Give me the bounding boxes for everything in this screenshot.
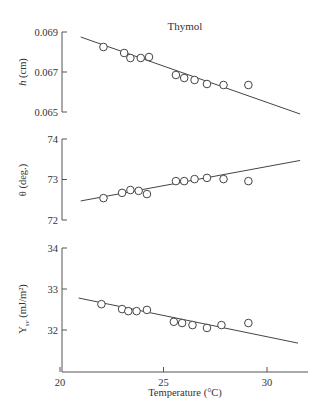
- y-tick-label: 0.069: [34, 27, 58, 38]
- data-point-marker: [133, 307, 141, 315]
- y-axis-theta: 747372: [48, 134, 68, 226]
- x-axis-temperature: 202530: [55, 367, 308, 388]
- data-point-marker: [143, 306, 151, 314]
- y-tick-label: 74: [48, 134, 59, 145]
- fit-line: [81, 160, 300, 201]
- y-tick-label: 72: [48, 215, 59, 226]
- y-axis-gamma: 343332: [48, 243, 68, 373]
- y-axis-title-theta: θ (deg.): [17, 163, 29, 196]
- data-point-marker: [172, 71, 180, 79]
- y-tick-label: 0.067: [34, 67, 58, 78]
- data-point-marker: [143, 190, 151, 198]
- plot-area-h: [81, 37, 300, 114]
- data-point-marker: [100, 194, 108, 202]
- data-point-marker: [172, 177, 180, 185]
- x-tick-label: 20: [55, 377, 66, 388]
- data-point-marker: [125, 307, 133, 315]
- data-point-marker: [127, 54, 135, 62]
- panel-top-h: 0.0690.0670.065 h (cm): [17, 27, 300, 118]
- data-point-marker: [137, 54, 145, 62]
- y-axis-title-h: h (cm): [17, 58, 29, 86]
- data-point-marker: [180, 177, 188, 185]
- plot-area-gamma: [79, 298, 298, 343]
- x-tick-label: 30: [262, 377, 273, 388]
- thymol-chart: Thymol 0.0690.0670.065 h (cm) 747372 θ (…: [0, 0, 324, 415]
- data-point-marker: [220, 175, 228, 183]
- data-point-marker: [203, 80, 211, 88]
- data-point-marker: [170, 318, 178, 326]
- data-point-marker: [118, 189, 126, 197]
- data-point-marker: [245, 177, 253, 185]
- data-point-marker: [191, 175, 199, 183]
- fit-line: [81, 37, 300, 114]
- y-tick-label: 73: [48, 174, 59, 185]
- y-tick-label: 32: [48, 325, 59, 336]
- data-point-marker: [98, 300, 106, 308]
- fit-line: [79, 298, 298, 343]
- panel-bottom-gamma: 343332 Ysv (mJ/m²) 202530 Temperature (°…: [17, 243, 308, 400]
- data-point-marker: [203, 174, 211, 182]
- data-point-marker: [191, 76, 199, 84]
- panel-middle-theta: 747372 θ (deg.): [17, 134, 300, 226]
- y-axis-h: 0.0690.0670.065: [34, 27, 67, 118]
- data-point-marker: [180, 74, 188, 82]
- data-point-marker: [189, 321, 197, 329]
- data-point-marker: [245, 81, 253, 89]
- plot-area-theta: [81, 160, 300, 201]
- y-tick-label: 0.065: [34, 107, 58, 118]
- data-point-marker: [218, 321, 226, 329]
- chart-title: Thymol: [168, 20, 203, 32]
- y-axis-title-gamma: Ysv (mJ/m²): [17, 284, 31, 334]
- data-point-marker: [220, 81, 228, 89]
- data-point-marker: [127, 186, 135, 194]
- data-point-marker: [203, 324, 211, 332]
- data-point-marker: [245, 319, 253, 327]
- data-point-marker: [135, 187, 143, 195]
- data-point-marker: [100, 43, 108, 51]
- data-point-marker: [178, 319, 186, 327]
- y-tick-label: 33: [48, 284, 59, 295]
- data-point-marker: [145, 53, 153, 61]
- x-axis-title: Temperature (°C): [148, 387, 222, 399]
- y-tick-label: 34: [48, 243, 59, 254]
